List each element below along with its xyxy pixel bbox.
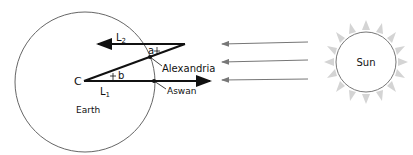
sun-ray-2 [222, 60, 308, 62]
label-angle-b: b [118, 70, 124, 81]
label-angle-a: a [148, 45, 154, 56]
eratosthenes-diagram: L2 a b C L1 Alexandria Aswan Earth [0, 0, 413, 155]
label-alexandria: Alexandria [162, 63, 215, 74]
label-sun: Sun [356, 57, 375, 68]
label-l1: L1 [100, 86, 110, 99]
label-center-c: C [74, 75, 82, 88]
sun-ray-1 [222, 42, 308, 44]
aswan-leader [154, 81, 166, 89]
sun-ray-3 [222, 79, 308, 80]
label-aswan: Aswan [167, 86, 196, 96]
label-earth: Earth [76, 105, 100, 115]
angle-b-marker [110, 73, 116, 80]
